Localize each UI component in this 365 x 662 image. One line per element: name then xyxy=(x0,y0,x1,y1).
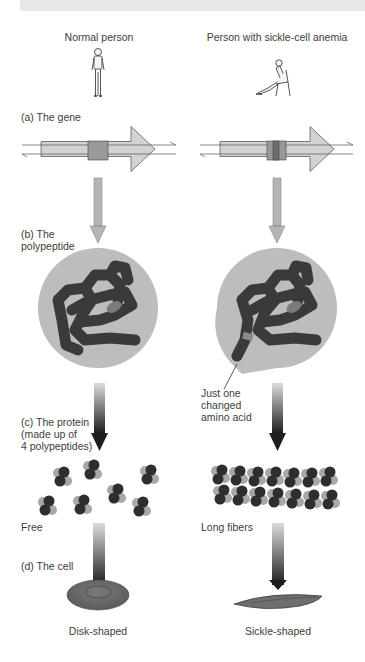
disk-shaped-cell-icon xyxy=(67,580,129,610)
standing-person-icon xyxy=(92,49,104,97)
long-fibers-icon xyxy=(211,465,340,510)
protein-to-cell-arrow-right xyxy=(269,523,287,590)
gene-to-polypeptide-arrow-right xyxy=(269,178,285,243)
normal-polypeptide-icon xyxy=(38,248,158,368)
sickle-polypeptide-icon xyxy=(215,248,337,389)
sitting-person-icon xyxy=(256,60,290,96)
normal-gene-icon xyxy=(22,127,176,172)
sickle-gene-icon xyxy=(200,127,353,172)
polypeptide-to-protein-arrow-right xyxy=(269,383,286,451)
polypeptide-to-protein-arrow-left xyxy=(91,383,108,451)
diagram-graphics xyxy=(0,0,365,662)
free-proteins-icon xyxy=(38,460,159,517)
gene-to-polypeptide-arrow-left xyxy=(90,178,106,243)
sickle-shaped-cell-icon xyxy=(234,595,322,609)
